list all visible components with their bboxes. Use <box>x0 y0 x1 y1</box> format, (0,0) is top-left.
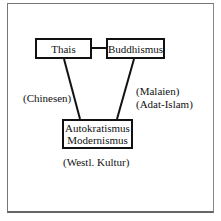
node-autokratismus-modernismus: Autokratismus Modernismus <box>62 119 133 149</box>
node-thais-label: Thais <box>51 43 75 55</box>
node-thais: Thais <box>35 38 92 59</box>
edge-buddhismus-autokratismus <box>117 59 134 119</box>
label-adat-islam: (Adat-Islam) <box>136 98 193 111</box>
node-modernismus-label: Modernismus <box>67 134 128 146</box>
node-autokratismus-label: Autokratismus <box>65 122 130 134</box>
label-malaien-adat-islam: (Malaien) (Adat-Islam) <box>136 85 193 111</box>
label-westl-kultur: (Westl. Kultur) <box>63 156 129 169</box>
node-buddhismus: Buddhismus <box>106 38 165 59</box>
label-chinesen: (Chinesen) <box>23 92 71 105</box>
node-buddhismus-label: Buddhismus <box>108 43 163 55</box>
edge-thais-autokratismus <box>64 59 80 119</box>
label-malaien: (Malaien) <box>136 85 193 98</box>
